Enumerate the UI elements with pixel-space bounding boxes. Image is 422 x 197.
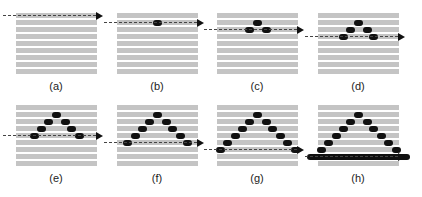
panel-g: (g) (201, 92, 301, 187)
edge-blob (363, 119, 372, 125)
panel-label: (d) (308, 80, 408, 92)
stripe (16, 69, 97, 74)
stripe (117, 105, 198, 110)
stripe (117, 119, 198, 124)
edge-blob (283, 140, 292, 146)
edge-blob (52, 112, 61, 118)
stripe (117, 133, 198, 138)
stripe (117, 62, 198, 67)
stripe (16, 126, 97, 131)
stripe (117, 126, 198, 131)
stripe (16, 20, 97, 25)
stripe (318, 119, 399, 124)
edge-blob (253, 112, 262, 118)
stripe (117, 41, 198, 46)
panel-f: (f) (101, 92, 201, 187)
panel-d: (d) (302, 0, 402, 95)
stripe (16, 147, 97, 152)
edge-blob (67, 126, 76, 132)
stripe (117, 34, 198, 39)
edge-blob (145, 119, 154, 125)
panel-b: (b) (101, 0, 201, 95)
edge-blob (268, 126, 277, 132)
stripe-grid (16, 13, 97, 75)
scan-line-dashed (104, 142, 197, 143)
stripe (217, 34, 298, 39)
scan-line-dashed (3, 15, 96, 16)
stripe (217, 133, 298, 138)
scan-line-dashed (204, 29, 297, 30)
stripe (318, 105, 399, 110)
stripe (117, 147, 198, 152)
stripe (16, 48, 97, 53)
stripe-grid (217, 105, 298, 167)
stripe (16, 105, 97, 110)
stripe (117, 154, 198, 159)
stripe (318, 69, 399, 74)
panel-c: (c) (201, 0, 301, 95)
panel-a: (a) (0, 0, 100, 95)
edge-blob (253, 20, 262, 26)
panel-label: (f) (107, 172, 207, 184)
stripe (318, 13, 399, 18)
edge-blob (131, 133, 140, 139)
stripe-grid (318, 13, 399, 75)
stripe (117, 161, 198, 166)
edge-blob (138, 126, 147, 132)
stripe-grid (16, 105, 97, 167)
panel-label: (b) (107, 80, 207, 92)
stripe (16, 161, 97, 166)
scan-line-dashed (204, 149, 297, 150)
edge-blob (363, 27, 372, 33)
stripe (16, 41, 97, 46)
stripe (318, 126, 399, 131)
edge-blob (162, 119, 171, 125)
stripe (117, 55, 198, 60)
edge-blob (369, 126, 378, 132)
stripe (318, 48, 399, 53)
stripe (217, 161, 298, 166)
panel-label: (a) (6, 80, 106, 92)
stripe-grid (217, 13, 298, 75)
edge-blob (346, 27, 355, 33)
edge-blob (238, 126, 247, 132)
stripe-grid (117, 105, 198, 167)
edge-blob (339, 126, 348, 132)
stripe (217, 69, 298, 74)
stripe (16, 154, 97, 159)
stripe (318, 27, 399, 32)
stripe (217, 119, 298, 124)
stripe (318, 161, 399, 166)
stripe (217, 62, 298, 67)
stripe (217, 55, 298, 60)
panel-h: (h) (302, 92, 402, 187)
stripe (16, 27, 97, 32)
stripe-grid (318, 105, 399, 167)
edge-blob (262, 119, 271, 125)
edge-blob (223, 140, 232, 146)
panel-label: (g) (207, 172, 307, 184)
stripe (16, 140, 97, 145)
stripe (217, 13, 298, 18)
edge-blob (276, 133, 285, 139)
stripe (217, 41, 298, 46)
stripe (318, 55, 399, 60)
edge-blob (231, 133, 240, 139)
edge-blob (176, 133, 185, 139)
stripe (217, 105, 298, 110)
stripe (318, 133, 399, 138)
edge-blob (332, 133, 341, 139)
scan-line-dashed (3, 135, 96, 136)
arrow-right-icon (398, 33, 405, 41)
stripe (16, 62, 97, 67)
edge-blob (245, 119, 254, 125)
stripe (217, 126, 298, 131)
edge-blob (354, 20, 363, 26)
edge-blob (384, 140, 393, 146)
stripe (117, 48, 198, 53)
edge-blob (317, 147, 326, 153)
edge-blob (377, 133, 386, 139)
edge-blob (37, 126, 46, 132)
panel-label: (h) (308, 172, 408, 184)
edge-blob (153, 112, 162, 118)
